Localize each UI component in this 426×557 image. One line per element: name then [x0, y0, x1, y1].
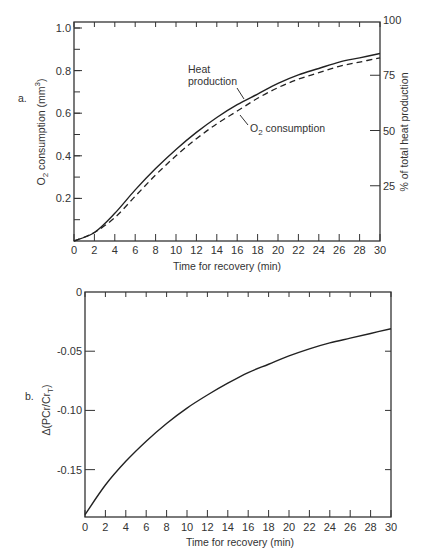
panel-a-y-axis-right: 255075100	[370, 14, 401, 192]
panel-a-y-axis-title-left: O2 consumption (mm3)	[33, 79, 50, 186]
x-tick-label: 12	[190, 244, 202, 256]
heat-annotation-arrow	[237, 88, 244, 99]
y-tick-label: 0.6	[56, 107, 71, 119]
y-tick-label: -0.05	[57, 345, 82, 357]
x-tick-label: 2	[102, 521, 108, 533]
y-tick-label: 0.8	[56, 65, 71, 77]
x-tick-label: 16	[231, 244, 243, 256]
x-tick-label: 16	[242, 521, 254, 533]
svg-text:O2 consumption: O2 consumption	[250, 122, 325, 137]
svg-text:production: production	[188, 75, 237, 87]
x-tick-label: 30	[385, 521, 397, 533]
x-tick-label: 18	[262, 521, 274, 533]
panel-a-y-axis-title-right: % of total heat production	[398, 72, 410, 191]
y-tick-label: 0.2	[56, 192, 71, 204]
panel-b-y-axis-right	[385, 351, 391, 469]
panel-a-chart: 024681012141618202224262830 0.20.40.60.8…	[18, 14, 410, 272]
x-tick-label: 8	[164, 521, 170, 533]
panel-a-x-axis-title: Time for recovery (min)	[173, 260, 281, 272]
x-tick-label: 0	[82, 521, 88, 533]
x-tick-label: 20	[283, 521, 295, 533]
x-tick-label: 6	[143, 521, 149, 533]
x-tick-label: 24	[324, 521, 336, 533]
panel-b-plot-frame	[85, 292, 391, 517]
x-tick-label: 0	[71, 244, 77, 256]
y-right-tick-label: 25	[383, 180, 395, 192]
x-tick-label: 30	[374, 244, 386, 256]
x-tick-label: 22	[292, 244, 304, 256]
panel-a-label: a.	[18, 92, 27, 104]
x-tick-label: 12	[201, 521, 213, 533]
x-tick-label: 22	[303, 521, 315, 533]
x-tick-label: 26	[333, 244, 345, 256]
x-tick-label: 20	[272, 244, 284, 256]
heat-production-annotation: Heat production	[188, 63, 244, 99]
x-tick-label: 18	[251, 244, 263, 256]
x-tick-label: 4	[112, 244, 118, 256]
x-tick-label: 4	[123, 521, 129, 533]
x-tick-label: 14	[211, 244, 223, 256]
pcr-ratio-line	[85, 329, 391, 515]
figure: 024681012141618202224262830 0.20.40.60.8…	[0, 0, 426, 557]
x-tick-label: 2	[91, 244, 97, 256]
panel-b-chart: 024681012141618202224262830 0-0.05-0.10-…	[25, 286, 397, 548]
x-tick-label: 26	[344, 521, 356, 533]
svg-text:Heat: Heat	[188, 63, 210, 75]
y-right-tick-label: 75	[383, 69, 395, 81]
panel-b-x-axis: 024681012141618202224262830	[82, 292, 397, 533]
x-tick-label: 28	[353, 244, 365, 256]
o2-annotation-arrow	[240, 115, 248, 125]
x-tick-label: 28	[364, 521, 376, 533]
panel-b-y-axis-left: 0-0.05-0.10-0.15	[57, 286, 95, 476]
x-tick-label: 10	[170, 244, 182, 256]
panel-b-y-axis-title: Δ(PCr/CrT)	[40, 385, 55, 436]
x-tick-label: 14	[222, 521, 234, 533]
x-tick-label: 8	[153, 244, 159, 256]
y-tick-label: 1.0	[56, 22, 71, 34]
y-tick-label: -0.10	[57, 404, 82, 416]
y-tick-label: -0.15	[57, 464, 82, 476]
y-tick-label: 0	[76, 286, 82, 298]
panel-b-label: b.	[25, 390, 34, 402]
x-tick-label: 10	[181, 521, 193, 533]
y-right-tick-label: 50	[383, 125, 395, 137]
x-tick-label: 24	[313, 244, 325, 256]
panel-a-y-axis-left: 0.20.40.60.81.0	[56, 22, 82, 220]
y-tick-label: 0.4	[56, 150, 71, 162]
o2-consumption-annotation: O2 consumption	[240, 115, 325, 137]
panel-b-x-axis-title: Time for recovery (min)	[186, 536, 294, 548]
x-tick-label: 6	[132, 244, 138, 256]
y-right-tick-label: 100	[383, 14, 401, 26]
panel-a-x-axis: 024681012141618202224262830	[71, 22, 386, 256]
